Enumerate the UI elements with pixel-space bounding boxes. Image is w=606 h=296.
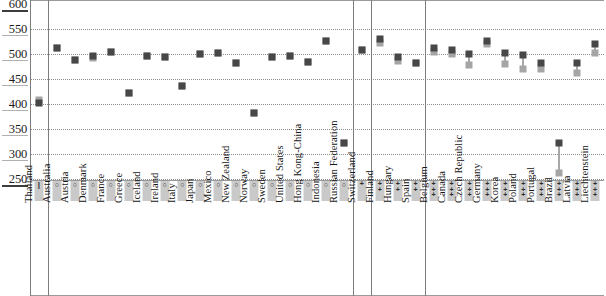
y-tick-label: 550 xyxy=(9,23,27,35)
x-category-label: Austria xyxy=(60,171,70,203)
x-category-label: Japan xyxy=(185,179,195,203)
gridline xyxy=(30,79,604,80)
gridline xyxy=(30,104,604,105)
x-category-label: Finland xyxy=(365,170,375,203)
y-tick-rule xyxy=(2,135,28,136)
y-tick-rule xyxy=(2,35,28,36)
x-category-label: Hungary xyxy=(383,166,393,203)
x-category-liechtenstein[interactable]: +++Liechtenstein xyxy=(586,180,604,296)
x-category-label: Indonesia xyxy=(311,161,321,203)
y-axis: 600550500450400350300250 xyxy=(0,0,30,182)
group-separator xyxy=(371,0,372,179)
y-tick-rule xyxy=(2,85,28,86)
data-point-light xyxy=(538,65,545,72)
data-point-dark xyxy=(269,53,276,60)
gridline xyxy=(30,154,604,155)
x-category-label: Brazil xyxy=(544,177,554,203)
x-category-label: Korea xyxy=(490,177,500,203)
group-separator xyxy=(30,0,31,179)
y-tick-label: 300 xyxy=(9,148,27,160)
plot-area xyxy=(30,4,604,179)
x-category-label: New Zealand xyxy=(221,146,231,203)
x-category-label: France xyxy=(96,174,106,203)
data-point-dark xyxy=(502,49,509,56)
data-point-dark xyxy=(287,52,294,59)
y-tick-label: 400 xyxy=(9,98,27,110)
data-point-dark xyxy=(215,50,222,57)
data-point-dark xyxy=(89,52,96,59)
data-point-dark xyxy=(412,59,419,66)
y-tick-rule xyxy=(2,110,28,111)
data-point-dark xyxy=(322,37,329,44)
data-point-dark xyxy=(484,37,491,44)
data-point-light xyxy=(520,66,527,73)
data-point-dark xyxy=(430,45,437,52)
x-category-label: Canada xyxy=(437,171,447,203)
x-category-label: Iceland xyxy=(132,171,142,203)
y-tick-label: 500 xyxy=(9,48,27,60)
data-point-dark xyxy=(394,53,401,60)
x-category-label: Thailand xyxy=(24,165,34,203)
x-axis-category-band: |Thailand○Australia○Austria○Denmark○Fran… xyxy=(30,180,604,296)
data-point-dark xyxy=(520,52,527,59)
x-category-label: Italy xyxy=(167,183,177,203)
x-category-label: Latvia xyxy=(562,176,572,203)
significance-symbol-icon: + xyxy=(593,192,597,198)
data-point-dark xyxy=(340,140,347,147)
data-point-dark xyxy=(125,90,132,97)
data-point-light xyxy=(574,69,581,76)
data-point-dark xyxy=(107,49,114,56)
group-separator xyxy=(425,0,426,179)
y-tick-label: 450 xyxy=(9,73,27,85)
chart-root: 600550500450400350300250 |Thailand○Austr… xyxy=(0,0,606,296)
x-category-label: Germany xyxy=(472,163,482,203)
x-category-label: United States xyxy=(275,145,285,203)
data-point-dark xyxy=(538,59,545,66)
category-symbol-chip: +++ xyxy=(591,181,600,201)
data-point-dark xyxy=(574,60,581,67)
x-category-label: Poland xyxy=(508,173,518,203)
data-point-dark xyxy=(556,140,563,147)
x-category-label: Spain xyxy=(401,179,411,203)
y-tick-rule xyxy=(2,160,28,161)
data-point-light xyxy=(502,60,509,67)
data-point-dark xyxy=(179,82,186,89)
x-category-label: Belgium xyxy=(419,166,429,203)
y-tick-label: 350 xyxy=(9,123,27,135)
data-point-dark xyxy=(592,41,599,48)
y-tick-rule xyxy=(2,10,28,12)
x-category-label: Sweden xyxy=(257,169,267,203)
x-category-label: Norway xyxy=(239,169,249,203)
data-point-dark xyxy=(71,56,78,63)
x-category-label: Portugal xyxy=(526,167,536,203)
x-category-label: Greece xyxy=(114,173,124,203)
data-point-dark xyxy=(143,52,150,59)
x-category-label: Czech Republic xyxy=(454,135,464,203)
x-category-label: Australia xyxy=(42,164,52,203)
significance-symbol-icon: | xyxy=(38,181,40,189)
gridline xyxy=(30,54,604,55)
y-tick-label: 600 xyxy=(9,0,27,10)
data-point-dark xyxy=(251,109,258,116)
x-category-label: Mexico xyxy=(203,170,213,203)
x-category-label: Liechtenstein xyxy=(580,145,590,203)
group-separator xyxy=(48,0,49,179)
data-point-dark xyxy=(358,46,365,53)
x-category-label: Switzerland xyxy=(347,152,357,203)
data-point-dark xyxy=(448,47,455,54)
x-category-label: Russian Federation xyxy=(329,120,339,203)
data-point-dark xyxy=(197,51,204,58)
data-point-light xyxy=(466,62,473,69)
series-connector xyxy=(558,143,560,173)
data-point-dark xyxy=(161,54,168,61)
x-category-label: Denmark xyxy=(78,163,88,203)
gridline xyxy=(30,29,604,30)
data-point-light xyxy=(592,49,599,56)
y-tick-rule xyxy=(2,60,28,61)
data-point-dark xyxy=(53,45,60,52)
plot-top-border xyxy=(30,0,604,1)
data-point-dark xyxy=(305,59,312,66)
data-point-dark xyxy=(376,36,383,43)
data-point-dark xyxy=(233,59,240,66)
data-point-dark xyxy=(466,51,473,58)
